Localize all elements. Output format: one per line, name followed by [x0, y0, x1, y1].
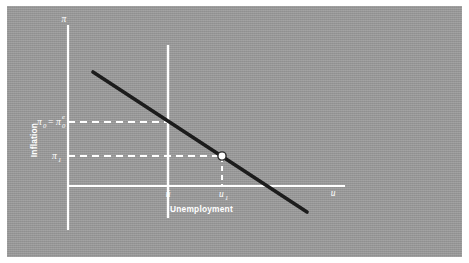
pi0-expected-subscript: 0: [62, 122, 66, 129]
u-bar-tick-label: ū: [166, 189, 171, 199]
phillips-curve-plot: π u π 0 = π 0 e π 1 ū u 1 Unemployment …: [0, 0, 469, 263]
x-axis-title: Unemployment: [170, 204, 233, 214]
pi0-label-subscript: 0: [43, 122, 47, 129]
pi0-equals-sign: =: [48, 117, 53, 127]
equilibrium-point-marker: [218, 152, 226, 160]
pi0-expected-base: π: [56, 117, 61, 127]
x-axis-symbol: u: [331, 188, 336, 198]
y-axis-title: Inflation: [29, 123, 39, 157]
phillips-curve-figure: π u π 0 = π 0 e π 1 ū u 1 Unemployment …: [0, 0, 469, 263]
pi1-label-base: π: [52, 151, 57, 161]
u1-tick-label-base: u: [219, 189, 224, 199]
phillips-curve-line: [93, 72, 307, 212]
u1-tick-label-subscript: 1: [225, 194, 228, 201]
pi1-label-subscript: 1: [58, 156, 61, 163]
pi0-expected-superscript: e: [62, 113, 65, 120]
y-axis-symbol: π: [62, 14, 67, 24]
